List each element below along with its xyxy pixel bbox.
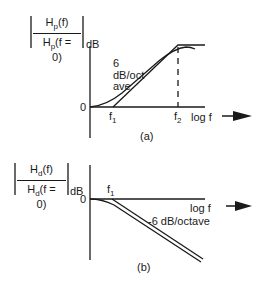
panel-a-f1-label: f1	[109, 111, 117, 125]
panel-b-f1-label: f1	[107, 184, 115, 198]
panel-b-magnitude-fraction: Hd(f) Hd(f = 0)	[17, 163, 66, 210]
panel-a-arrow-icon	[222, 111, 252, 121]
panel-b-caption: (b)	[137, 262, 150, 273]
panel-a-slope-label-line1: 6	[113, 58, 119, 69]
panel-b-denominator: Hd(f = 0)	[17, 181, 66, 210]
panel-a-x-axis-label: log f	[191, 112, 212, 123]
panel-a-slope-label-line3: ave	[113, 81, 131, 92]
panel-b-zero-label: 0	[80, 194, 86, 205]
panel-a-caption: (a)	[140, 131, 153, 142]
panel-b-response-curve	[90, 199, 201, 262]
panel-a-f2-label: f2	[174, 111, 182, 125]
panel-b-arrow-icon	[226, 201, 252, 211]
panel-a-zero-label: 0	[80, 102, 86, 113]
panel-a-plot	[90, 45, 205, 138]
panel-b-numerator: Hd(f)	[17, 163, 66, 181]
panel-a-denominator: Hp(f = 0)	[33, 34, 81, 63]
panel-a-magnitude-fraction: Hp(f) Hp(f = 0)	[33, 16, 81, 63]
panel-b-x-axis-label: log f	[190, 203, 211, 214]
panel-b-slope-label: -6 dB/octave	[148, 216, 210, 227]
panel-a-unit-label: dB	[86, 39, 99, 50]
panel-b-plot	[90, 165, 205, 262]
panel-a-numerator: Hp(f)	[33, 16, 81, 34]
